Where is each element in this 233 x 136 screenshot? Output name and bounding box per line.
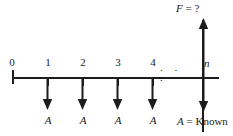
future-value-equals: = [183, 2, 195, 14]
tick-mark-0 [12, 70, 14, 84]
down-arrow-label-3: A [108, 115, 128, 126]
down-arrow-period-4 [146, 79, 159, 110]
known-legend-label: A = Known [177, 116, 228, 127]
ellipsis-dots: . . . [160, 62, 196, 72]
future-value-label: F = ? [176, 3, 232, 14]
cash-flow-diagram: 0 1 2 3 4 n . . . F = ? A A A [0, 0, 233, 136]
tick-label-1: 1 [39, 57, 57, 68]
down-arrow-period-n [197, 79, 210, 112]
future-value-symbol: F [176, 2, 183, 14]
down-arrow-period-1 [41, 79, 54, 110]
down-arrow-period-2 [76, 79, 89, 110]
down-arrow-label-1: A [38, 115, 58, 126]
down-arrow-label-2: A [73, 115, 93, 126]
down-arrow-label-4: A [143, 115, 163, 126]
future-value-value: ? [194, 2, 199, 14]
known-legend-equals: = [184, 115, 196, 127]
down-arrow-period-3 [111, 79, 124, 110]
known-legend-symbol: A [177, 115, 184, 127]
up-arrow-future-value [197, 18, 210, 78]
tick-label-3: 3 [109, 57, 127, 68]
known-legend-value: Known [195, 115, 227, 127]
tick-label-2: 2 [74, 57, 92, 68]
tick-label-0: 0 [3, 57, 21, 68]
